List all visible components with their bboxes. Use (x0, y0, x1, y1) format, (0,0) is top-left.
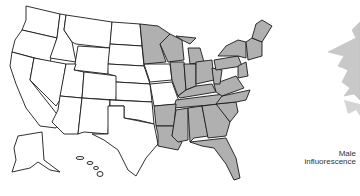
leaf-tip (344, 100, 360, 116)
illustration-caption: Male influorescence (304, 150, 356, 166)
hawaii-inset (76, 157, 103, 177)
alaska-inset (12, 132, 60, 172)
caption-line-2: influorescence (304, 158, 356, 166)
maple-leaf-shape (328, 22, 360, 100)
us-range-map (0, 0, 300, 196)
plant-illustration (296, 0, 360, 196)
